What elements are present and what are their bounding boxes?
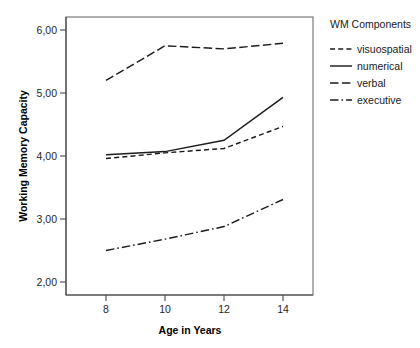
y-tick-label: 4,00 [37,150,58,162]
legend-swatch-executive-icon [330,95,352,105]
series-line-executive [106,199,283,250]
x-tick-label: 12 [218,303,230,315]
legend-label: executive [357,94,401,106]
legend: WM Components visuospatial numerical ver… [330,18,420,109]
series-line-numerical [106,97,283,154]
legend-item-visuospatial[interactable]: visuospatial [330,41,420,56]
legend-label: numerical [357,60,403,72]
legend-label: visuospatial [357,43,412,55]
series-lines [106,43,283,250]
x-axis-ticks: 8 10 12 14 [103,295,289,315]
legend-item-verbal[interactable]: verbal [330,75,420,90]
legend-item-executive[interactable]: executive [330,92,420,107]
legend-swatch-verbal-icon [330,78,352,88]
series-line-verbal [106,43,283,80]
y-tick-label: 5,00 [37,87,58,99]
x-tick-label: 10 [159,303,171,315]
x-axis-title: Age in Years [159,324,222,336]
y-axis-title: Working Memory Capacity [17,90,29,222]
legend-swatch-visuospatial-icon [330,44,352,54]
plot-frame [66,17,313,295]
x-tick-label: 8 [103,303,109,315]
chart-figure: 6,00 5,00 4,00 3,00 2,00 8 10 12 14 Age … [0,0,420,348]
legend-label: verbal [357,77,386,89]
y-tick-label: 3,00 [37,213,58,225]
legend-title: WM Components [330,18,420,30]
legend-swatch-numerical-icon [330,61,352,71]
y-axis-ticks: 6,00 5,00 4,00 3,00 2,00 [37,24,66,288]
y-tick-label: 2,00 [37,276,58,288]
x-tick-label: 14 [277,303,289,315]
y-tick-label: 6,00 [37,24,58,36]
legend-item-numerical[interactable]: numerical [330,58,420,73]
